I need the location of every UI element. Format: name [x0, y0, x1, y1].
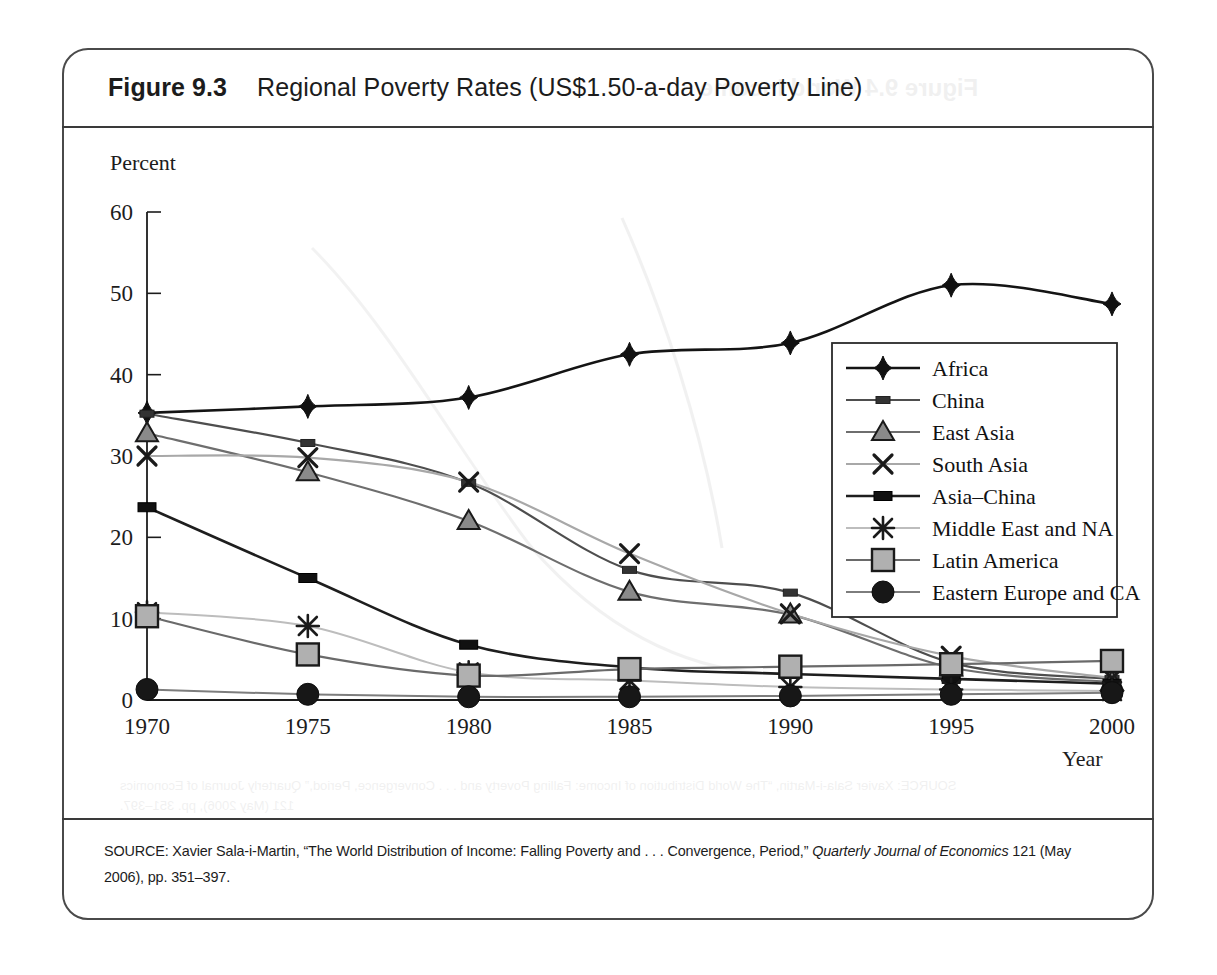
y-tick-label: 50 [110, 281, 133, 306]
legend-marker-wide-square-icon [874, 492, 892, 501]
data-point-marker [779, 685, 801, 707]
source-divider [62, 818, 1154, 820]
y-tick-label: 30 [110, 444, 133, 469]
data-point-marker [458, 510, 480, 529]
regional-poverty-rates-line-chart: Percent Year 0102030405060 1970197519801… [62, 128, 1154, 818]
source-prefix: SOURCE: Xavier Sala-i-Martin, “The World… [104, 843, 812, 859]
data-point-marker [299, 574, 317, 583]
figure-title: Regional Poverty Rates (US$1.50-a-day Po… [257, 73, 862, 102]
bleed-through-curve [312, 218, 762, 673]
x-axis-ticks: 1970197519801985199019952000 [124, 714, 1135, 739]
data-point-marker [940, 683, 962, 705]
data-point-marker [136, 605, 158, 627]
x-axis-title: Year [1062, 746, 1103, 771]
source-note: SOURCE: Xavier Sala-i-Martin, “The World… [104, 838, 1114, 890]
legend-label: Africa [932, 356, 988, 381]
y-tick-label: 10 [110, 607, 133, 632]
figure-number: Figure 9.3 [108, 73, 227, 102]
data-point-marker [619, 658, 641, 680]
data-point-marker [297, 615, 319, 637]
x-tick-label: 1980 [446, 714, 492, 739]
data-point-marker [781, 331, 799, 355]
data-point-marker [942, 273, 960, 297]
data-point-marker [138, 503, 156, 512]
data-point-marker [140, 410, 154, 417]
legend-marker-square-icon [872, 549, 894, 571]
data-point-marker [460, 385, 478, 409]
x-tick-label: 1970 [124, 714, 170, 739]
data-point-marker [1101, 650, 1123, 672]
legend-marker-circle-icon [872, 581, 894, 603]
y-tick-label: 60 [110, 200, 133, 225]
data-point-marker [297, 683, 319, 705]
data-point-marker [1103, 292, 1121, 316]
y-tick-label: 0 [122, 688, 134, 713]
data-point-marker [460, 640, 478, 649]
data-point-marker [297, 643, 319, 665]
data-point-marker [623, 566, 637, 573]
data-point-marker [136, 422, 158, 441]
legend-box [832, 343, 1117, 617]
data-point-marker [940, 653, 962, 675]
chart-plot-region: Percent Year 0102030405060 1970197519801… [62, 128, 1154, 818]
data-point-marker [621, 342, 639, 366]
x-tick-label: 1975 [285, 714, 331, 739]
data-point-marker [299, 394, 317, 418]
data-point-marker [619, 686, 641, 708]
data-point-marker [301, 439, 315, 446]
legend-label: South Asia [932, 452, 1028, 477]
figure-caption-bar: Figure 9.3 Regional Poverty Rates (US$1.… [62, 48, 1154, 128]
legend-label: Asia–China [932, 484, 1036, 509]
data-point-marker [458, 665, 480, 687]
figure-caption: Figure 9.3 Regional Poverty Rates (US$1.… [62, 73, 863, 102]
source-journal-title: Quarterly Journal of Economics [812, 843, 1008, 859]
data-point-marker [779, 656, 801, 678]
legend-label: Eastern Europe and CA [932, 580, 1140, 605]
data-point-marker [1101, 682, 1123, 704]
data-point-marker [136, 678, 158, 700]
data-point-marker [458, 686, 480, 708]
y-tick-label: 40 [110, 363, 133, 388]
legend-marker-small-square-icon [876, 397, 890, 404]
x-tick-label: 1995 [928, 714, 974, 739]
x-tick-label: 1990 [767, 714, 813, 739]
chart-legend: AfricaChinaEast AsiaSouth AsiaAsia–China… [832, 343, 1140, 617]
x-tick-label: 2000 [1089, 714, 1135, 739]
legend-label: East Asia [932, 420, 1015, 445]
data-point-marker [783, 589, 797, 596]
legend-marker-asterisk-icon [872, 517, 894, 539]
legend-label: China [932, 388, 985, 413]
x-tick-label: 1985 [607, 714, 653, 739]
y-tick-label: 20 [110, 525, 133, 550]
data-point-marker [621, 545, 639, 563]
legend-label: Middle East and NA [932, 516, 1114, 541]
y-axis-title: Percent [110, 150, 176, 175]
legend-label: Latin America [932, 548, 1059, 573]
